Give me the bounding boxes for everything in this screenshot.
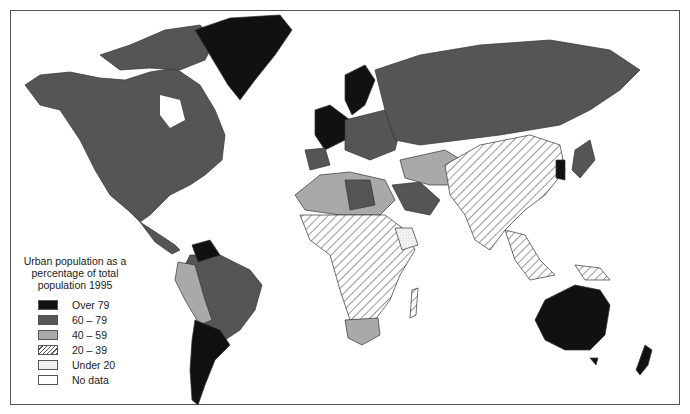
legend-title-line-1: Urban population as a — [20, 255, 130, 267]
region-central-america — [140, 222, 180, 254]
region-madagascar — [410, 288, 418, 318]
region-north-africa — [295, 172, 395, 215]
legend-label: Under 20 — [72, 359, 115, 371]
legend-label: 60 – 79 — [72, 314, 107, 326]
region-australia — [535, 285, 610, 350]
legend-item-no-data: No data — [38, 372, 130, 387]
legend-item-under-20: Under 20 — [38, 357, 130, 372]
region-greenland — [195, 15, 292, 100]
region-russia — [375, 40, 640, 145]
region-new-zealand — [636, 345, 652, 375]
swatch-20-39 — [38, 345, 58, 355]
region-south-africa — [345, 318, 380, 345]
region-tasmania — [590, 358, 598, 365]
swatch-40-59 — [38, 330, 58, 340]
swatch-over-79 — [38, 300, 58, 310]
legend-label: Over 79 — [72, 299, 109, 311]
swatch-60-79 — [38, 315, 58, 325]
swatch-under-20 — [38, 360, 58, 370]
legend-label: 20 – 39 — [72, 344, 107, 356]
legend-label: No data — [72, 374, 109, 386]
swatch-no-data — [38, 375, 58, 385]
region-scandinavia — [345, 65, 375, 115]
region-korea — [556, 160, 565, 180]
legend-title: Urban population as a percentage of tota… — [20, 255, 130, 291]
region-north-america — [25, 68, 225, 222]
region-china-india — [445, 135, 565, 250]
legend-title-line-3: population 1995 — [20, 279, 130, 291]
legend-item-over-79: Over 79 — [38, 297, 130, 312]
legend-label: 40 – 59 — [72, 329, 107, 341]
legend-item-20-39: 20 – 39 — [38, 342, 130, 357]
region-new-guinea — [575, 265, 610, 280]
region-arabia — [392, 182, 440, 215]
map-legend: Urban population as a percentage of tota… — [20, 255, 130, 387]
legend-item-40-59: 40 – 59 — [38, 327, 130, 342]
region-se-asia — [505, 230, 555, 280]
region-libya — [345, 180, 375, 210]
legend-item-60-79: 60 – 79 — [38, 312, 130, 327]
region-japan — [572, 140, 595, 178]
region-iberia — [305, 148, 330, 170]
legend-title-line-2: percentage of total — [20, 267, 130, 279]
